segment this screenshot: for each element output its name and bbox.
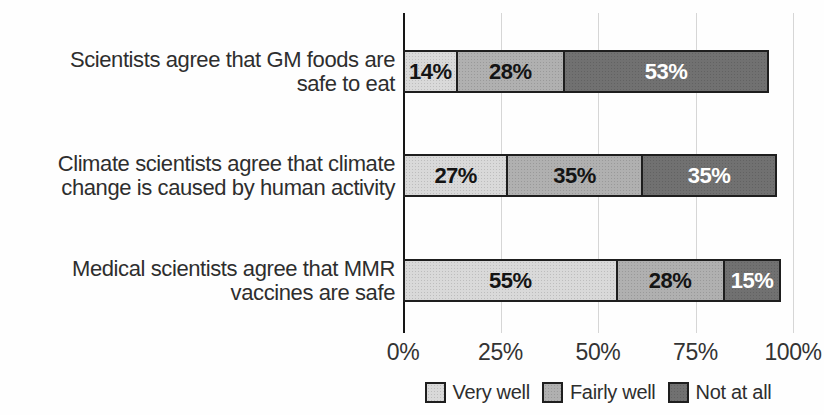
legend: Very well Fairly well Not at all — [398, 381, 798, 404]
segment-value-label: 27% — [434, 163, 477, 189]
legend-swatch-fairly-well — [542, 382, 563, 403]
category-label-gm-foods: Scientists agree that GM foods are safe … — [0, 48, 395, 95]
bar-segment-very-well: 55% — [403, 259, 618, 302]
bar-row-mmr: 55% 28% 15% — [403, 259, 793, 302]
category-label-climate: Climate scientists agree that climate ch… — [0, 152, 395, 199]
bar-segment-not-at-all: 15% — [723, 259, 782, 302]
segment-value-label: 35% — [553, 163, 596, 189]
bar-row-climate: 27% 35% 35% — [403, 154, 793, 197]
bar-segment-fairly-well: 28% — [616, 259, 725, 302]
x-axis: 0% 25% 50% 75% 100% — [403, 339, 793, 369]
x-tick-100: 100% — [764, 339, 821, 366]
x-tick-0: 0% — [387, 339, 419, 366]
category-label-mmr: Medical scientists agree that MMR vaccin… — [0, 257, 395, 304]
gridline-100pct — [793, 13, 794, 333]
x-tick-75: 75% — [673, 339, 718, 366]
segment-value-label: 55% — [489, 268, 532, 294]
segment-value-label: 28% — [649, 268, 692, 294]
bar-segment-not-at-all: 53% — [563, 50, 770, 93]
legend-item-very-well: Very well — [425, 381, 530, 404]
bar-segment-fairly-well: 35% — [506, 154, 643, 197]
legend-label-not-at-all: Not at all — [696, 381, 772, 404]
stacked-bar-chart: Scientists agree that GM foods are safe … — [0, 0, 824, 415]
bar-segment-fairly-well: 28% — [456, 50, 565, 93]
legend-item-not-at-all: Not at all — [668, 381, 772, 404]
bar-segment-very-well: 14% — [403, 50, 458, 93]
legend-label-fairly-well: Fairly well — [570, 381, 656, 404]
segment-value-label: 15% — [731, 268, 774, 294]
legend-swatch-very-well — [425, 382, 446, 403]
segment-value-label: 28% — [489, 59, 532, 85]
bar-segment-not-at-all: 35% — [641, 154, 778, 197]
bar-row-gm-foods: 14% 28% 53% — [403, 50, 793, 93]
bar-segment-very-well: 27% — [403, 154, 508, 197]
x-tick-50: 50% — [576, 339, 621, 366]
segment-value-label: 53% — [645, 59, 688, 85]
legend-swatch-not-at-all — [668, 382, 689, 403]
legend-label-very-well: Very well — [453, 381, 530, 404]
x-tick-25: 25% — [478, 339, 523, 366]
legend-item-fairly-well: Fairly well — [542, 381, 656, 404]
plot-area: 14% 28% 53% 27% 35% 35% 55% 28% 15% — [403, 13, 793, 333]
segment-value-label: 35% — [688, 163, 731, 189]
segment-value-label: 14% — [409, 59, 452, 85]
